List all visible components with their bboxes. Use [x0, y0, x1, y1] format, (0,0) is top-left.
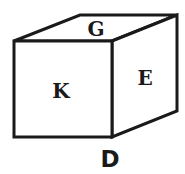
front-face-label: K — [52, 79, 70, 103]
top-face-label: G — [87, 17, 104, 41]
cube-diagram: G K E D — [0, 0, 185, 174]
bottom-face-label: D — [100, 146, 119, 172]
right-face-label: E — [137, 66, 152, 90]
